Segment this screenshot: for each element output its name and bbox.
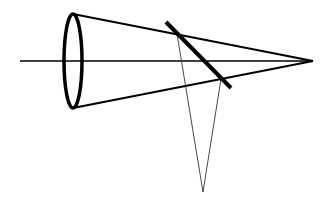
- cone-edge-bottom: [73, 61, 313, 108]
- tilted-plane: [166, 22, 231, 88]
- cone-edge-top: [73, 14, 313, 61]
- projection-line-2: [203, 79, 221, 192]
- cone-diagram: [0, 0, 328, 204]
